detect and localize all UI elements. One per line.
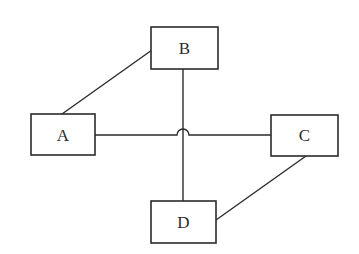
node-c-label: C xyxy=(299,126,310,145)
node-d: D xyxy=(151,201,216,243)
edge-a-b xyxy=(62,50,152,114)
node-c: C xyxy=(271,115,338,156)
node-b-label: B xyxy=(179,39,190,58)
node-a-label: A xyxy=(57,126,70,145)
node-b: B xyxy=(151,27,218,69)
diagram-canvas: B A C D xyxy=(0,0,359,254)
node-d-label: D xyxy=(177,213,189,232)
node-a: A xyxy=(31,114,95,155)
edge-c-d xyxy=(216,156,306,220)
